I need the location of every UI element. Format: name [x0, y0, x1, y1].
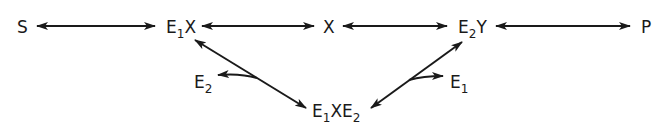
- arrow-e1xe2-e2y: [371, 42, 462, 108]
- node-p: P: [641, 17, 651, 37]
- reaction-diagram: S E1X X E2Y P E2 E1XE2 E1: [0, 0, 666, 132]
- node-x: X: [323, 17, 335, 37]
- arrow-e1x-e1xe2: [195, 40, 306, 108]
- node-e1xe2: E1XE2: [312, 101, 360, 125]
- node-e2y: E2Y: [458, 17, 487, 41]
- node-s: S: [17, 17, 28, 37]
- node-e1x: E1X: [166, 17, 196, 41]
- node-e2-released: E2: [194, 72, 212, 96]
- node-e1-released: E1: [450, 72, 468, 96]
